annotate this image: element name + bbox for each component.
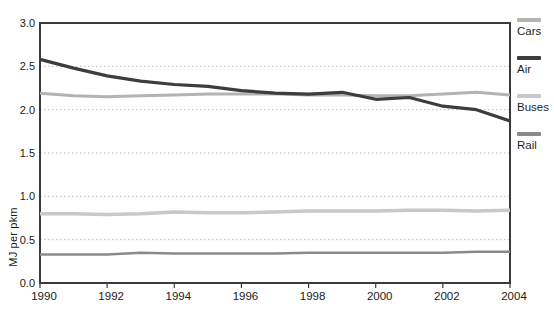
x-tick-label-1992: 1992: [98, 290, 124, 302]
chart-panel: 0.00.51.01.52.02.53.01990199219941996199…: [0, 0, 554, 311]
x-tick-label-1998: 1998: [300, 290, 326, 302]
legend-label-rail: Rail: [517, 140, 541, 152]
y-tick-label-1: 1.0: [20, 190, 35, 202]
y-tick-label-3: 3.0: [20, 17, 35, 29]
plot-border: [40, 23, 510, 283]
legend-item-cars: Cars: [517, 18, 541, 37]
y-axis-title: MJ per pkm: [7, 187, 21, 287]
legend-item-rail: Rail: [517, 132, 541, 151]
y-tick-label-2: 2.0: [20, 104, 35, 116]
x-tick-label-2000: 2000: [367, 290, 393, 302]
x-tick-label-2002: 2002: [434, 290, 460, 302]
cars-line-swatch: [517, 18, 541, 22]
legend-label-buses: Buses: [517, 102, 549, 114]
air-line-swatch: [517, 56, 541, 60]
series-line-buses: [40, 210, 510, 214]
legend-label-cars: Cars: [517, 26, 541, 38]
x-tick-label-1996: 1996: [233, 290, 259, 302]
legend-item-air: Air: [517, 56, 541, 75]
y-tick-label-0.5: 0.5: [20, 234, 35, 246]
y-tick-label-2.5: 2.5: [20, 60, 35, 72]
x-tick-label-1994: 1994: [165, 290, 191, 302]
rail-line-swatch: [517, 132, 541, 136]
series-line-air: [40, 59, 510, 121]
legend-label-air: Air: [517, 64, 541, 76]
series-line-rail: [40, 252, 510, 255]
plot-area: 0.00.51.01.52.02.53.01990199219941996199…: [0, 0, 554, 311]
x-tick-label-2004: 2004: [501, 290, 527, 302]
y-tick-label-1.5: 1.5: [20, 147, 35, 159]
legend-item-buses: Buses: [517, 94, 549, 113]
x-tick-label-1990: 1990: [31, 290, 57, 302]
buses-line-swatch: [517, 94, 541, 98]
y-tick-label-0: 0.0: [20, 277, 35, 289]
